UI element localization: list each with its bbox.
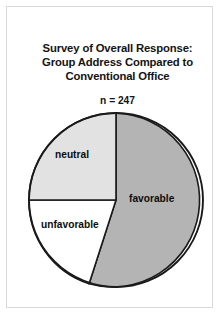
sample-size-annotation: n = 247 [17, 95, 218, 106]
pie-label-neutral: neutral [55, 149, 89, 160]
pie-chart-svg [27, 109, 209, 293]
chart-title-line-1: Survey of Overall Response: [17, 41, 218, 55]
pie-chart [27, 109, 209, 293]
figure-frame: Survey of Overall Response: Group Addres… [6, 6, 213, 308]
chart-page: Survey of Overall Response: Group Addres… [0, 0, 221, 316]
pie-label-favorable: favorable [129, 193, 174, 204]
chart-title: Survey of Overall Response: Group Addres… [17, 41, 218, 84]
chart-title-line-3: Conventional Office [17, 69, 218, 83]
pie-label-unfavorable: unfavorable [41, 219, 99, 230]
chart-title-line-2: Group Address Compared to [17, 55, 218, 69]
